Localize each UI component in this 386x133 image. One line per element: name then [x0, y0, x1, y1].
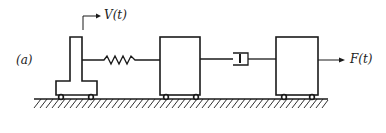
spring [82, 56, 160, 64]
force-arrow [318, 58, 345, 63]
diagram-canvas [0, 0, 386, 133]
velocity-input-arrow [83, 14, 101, 31]
middle-mass [160, 37, 200, 99]
velocity-label: V(t) [104, 8, 127, 22]
driven-cart [56, 37, 97, 99]
dashpot [200, 53, 276, 65]
ground [34, 99, 328, 108]
mechanical-system-diagram: (a) V(t) F(t) [0, 0, 386, 133]
right-mass [276, 37, 318, 99]
panel-label: (a) [16, 53, 33, 67]
force-label: F(t) [350, 52, 373, 66]
